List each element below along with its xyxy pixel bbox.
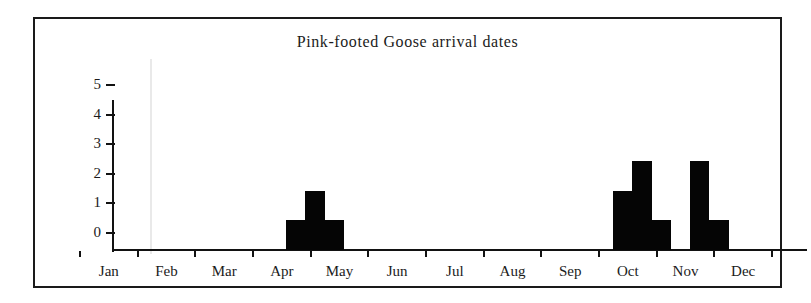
bar	[632, 161, 652, 250]
x-tick-mark	[425, 251, 427, 257]
x-tick-mark	[194, 251, 196, 257]
x-tick-mark	[598, 251, 600, 257]
y-tick-label: 2	[83, 166, 101, 181]
y-tick-label: 4	[83, 107, 101, 122]
y-tick-label: 5	[83, 77, 101, 92]
x-tick-label-oct: Oct	[599, 263, 657, 280]
x-tick-mark	[483, 251, 485, 257]
y-tick-label: 0	[83, 225, 101, 240]
bar	[709, 220, 729, 250]
x-tick-mark	[540, 251, 542, 257]
x-tick-label-sep: Sep	[541, 263, 599, 280]
x-tick-mark	[252, 251, 254, 257]
bar	[613, 191, 633, 250]
bar	[651, 220, 671, 250]
x-tick-mark	[771, 251, 773, 257]
x-tick-label-mar: Mar	[195, 263, 253, 280]
y-tick-mark	[106, 84, 115, 86]
figure-frame: Pink-footed Goose arrival dates 543210 J…	[33, 17, 782, 288]
x-tick-mark	[713, 251, 715, 257]
bar	[286, 220, 306, 250]
page-title: Pink-footed Goose arrival dates	[35, 33, 780, 51]
x-tick-mark	[367, 251, 369, 257]
x-tick-label-aug: Aug	[484, 263, 542, 280]
figure-container: Pink-footed Goose arrival dates 543210 J…	[0, 0, 811, 303]
x-tick-label-apr: Apr	[253, 263, 311, 280]
x-tick-label-jan: Jan	[80, 263, 138, 280]
x-tick-mark	[137, 251, 139, 257]
x-tick-mark	[79, 251, 81, 257]
x-tick-mark	[310, 251, 312, 257]
bar	[324, 220, 344, 250]
y-tick-label: 1	[83, 195, 101, 210]
x-tick-label-may: May	[311, 263, 369, 280]
bar	[305, 191, 325, 250]
y-tick-label: 3	[83, 136, 101, 151]
x-tick-label-jun: Jun	[368, 263, 426, 280]
plot-area	[113, 102, 805, 250]
x-tick-label-jul: Jul	[426, 263, 484, 280]
x-tick-mark	[656, 251, 658, 257]
bar	[690, 161, 710, 250]
x-tick-label-dec: Dec	[714, 263, 772, 280]
x-tick-label-feb: Feb	[138, 263, 196, 280]
x-tick-label-nov: Nov	[657, 263, 715, 280]
